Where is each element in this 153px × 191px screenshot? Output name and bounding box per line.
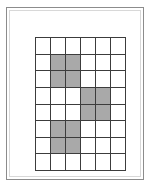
grid-cell-empty [96,38,110,54]
grid-cell-shaded [96,105,110,121]
grid-cell-shaded [51,55,65,71]
grid-cell-shaded [66,121,80,137]
grid-cell-shaded [51,71,65,87]
grid-cell-shaded [96,88,110,104]
grid-cell-empty [81,38,95,54]
grid-cell-empty [96,71,110,87]
grid-cell-empty [81,154,95,170]
grid-cell-shaded [51,121,65,137]
grid-cell-empty [36,88,50,104]
figure-frame [6,7,144,180]
grid-cell-empty [36,55,50,71]
grid-cell-empty [81,55,95,71]
grid-cell-empty [66,105,80,121]
grid-cell-shaded [51,138,65,154]
grid-cell-shaded [66,71,80,87]
grid-cell-empty [36,38,50,54]
grid-cell-shaded [81,105,95,121]
grid-cell-empty [111,121,125,137]
grid-cell-shaded [81,88,95,104]
grid-cell-empty [36,105,50,121]
grid-cell-empty [111,154,125,170]
grid-cell-shaded [66,138,80,154]
grid-cell-empty [51,154,65,170]
grid-cell-empty [36,154,50,170]
grid-cell-empty [81,138,95,154]
grid-cell-empty [36,71,50,87]
grid-cell-empty [81,71,95,87]
grid-cell-empty [111,138,125,154]
grid-cell-empty [66,88,80,104]
grid-cell-empty [111,38,125,54]
grid-cell-empty [111,71,125,87]
grid-cell-empty [96,154,110,170]
grid-cell-empty [51,105,65,121]
grid-cell-empty [66,154,80,170]
grid-cell-empty [96,138,110,154]
grid-cell-empty [111,88,125,104]
shaded-grid [35,37,126,171]
grid-cell-empty [51,88,65,104]
grid-cell-shaded [66,55,80,71]
grid-cell-empty [66,38,80,54]
grid-cell-empty [36,121,50,137]
grid-cell-empty [81,121,95,137]
grid-cell-empty [51,38,65,54]
grid-cell-empty [36,138,50,154]
grid-cell-empty [111,105,125,121]
grid-cell-empty [111,55,125,71]
grid-cell-empty [96,121,110,137]
grid-cell-empty [96,55,110,71]
